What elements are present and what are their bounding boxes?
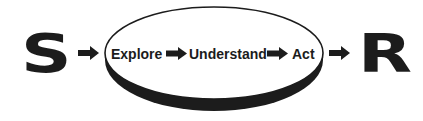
- s-r-diagram: S Explore Understand Act R: [0, 0, 423, 121]
- arrow-right-icon: [78, 46, 100, 60]
- step-understand: Understand: [189, 47, 267, 61]
- step-explore: Explore: [111, 47, 162, 61]
- stimulus-letter: S: [21, 27, 72, 81]
- arrow-right-icon: [329, 46, 351, 60]
- arrow-right-icon: [267, 47, 289, 60]
- step-act: Act: [292, 47, 315, 61]
- arrow-right-icon: [166, 47, 188, 60]
- response-letter: R: [358, 27, 412, 81]
